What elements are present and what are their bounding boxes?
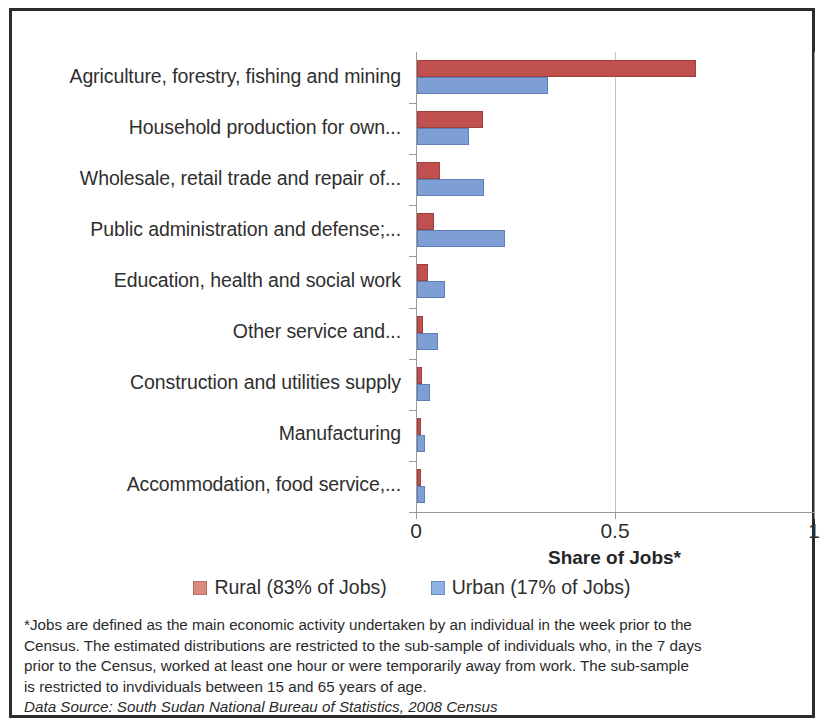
category-label: Manufacturing <box>16 423 401 443</box>
y-axis-tick <box>409 359 416 360</box>
category-label: Other service and... <box>16 321 401 341</box>
x-axis-tick-label: 0 <box>386 519 446 543</box>
x-axis-tick <box>416 512 417 519</box>
y-axis-tick <box>409 205 416 206</box>
bar-group <box>417 410 814 461</box>
bar-group <box>417 359 814 410</box>
bar-chart: Agriculture, forestry, fishing and minin… <box>12 11 812 531</box>
category-label: Accommodation, food service,... <box>16 474 401 494</box>
legend-item-rural[interactable]: Rural (83% of Jobs) <box>193 576 386 599</box>
bar-urban[interactable] <box>417 435 425 452</box>
category-label: Education, health and social work <box>16 270 401 290</box>
bar-rural[interactable] <box>417 316 423 333</box>
category-label: Construction and utilities supply <box>16 372 401 392</box>
y-axis-tick <box>409 410 416 411</box>
bar-urban[interactable] <box>417 333 438 350</box>
legend-item-urban[interactable]: Urban (17% of Jobs) <box>431 576 631 599</box>
y-axis-tick <box>409 461 416 462</box>
bar-urban[interactable] <box>417 486 425 503</box>
y-axis-tick <box>409 512 416 513</box>
bar-urban[interactable] <box>417 281 445 298</box>
figure-frame: Agriculture, forestry, fishing and minin… <box>9 8 815 718</box>
bar-urban[interactable] <box>417 179 484 196</box>
footnote-line-3: prior to the Census, worked at least one… <box>24 656 804 677</box>
plot-area <box>407 52 814 512</box>
category-label: Public administration and defense;... <box>16 219 401 239</box>
data-source: Data Source: South Sudan National Bureau… <box>24 697 804 718</box>
bar-group <box>417 461 814 512</box>
x-axis-tick <box>615 512 616 519</box>
x-axis-tick-label: 0.5 <box>585 519 645 543</box>
bar-rural[interactable] <box>417 60 696 77</box>
footnote-line-1: *Jobs are defined as the main economic a… <box>24 615 804 636</box>
legend-label: Rural (83% of Jobs) <box>214 576 386 599</box>
y-axis-category-labels: Agriculture, forestry, fishing and minin… <box>12 52 401 512</box>
bar-group <box>417 205 814 256</box>
y-axis-tick <box>409 256 416 257</box>
bar-rural[interactable] <box>417 213 434 230</box>
x-axis-tick-label: 1 <box>784 519 825 543</box>
y-axis-tick <box>409 103 416 104</box>
bar-urban[interactable] <box>417 230 505 247</box>
x-axis-tick <box>814 512 815 519</box>
bar-group <box>417 308 814 359</box>
bar-rural[interactable] <box>417 111 483 128</box>
bar-rural[interactable] <box>417 264 428 281</box>
y-axis-tick <box>409 308 416 309</box>
rural-swatch-icon <box>193 581 207 595</box>
category-label: Agriculture, forestry, fishing and minin… <box>16 66 401 86</box>
legend-label: Urban (17% of Jobs) <box>452 576 631 599</box>
bar-urban[interactable] <box>417 128 469 145</box>
bar-group <box>417 154 814 205</box>
bar-group <box>417 103 814 154</box>
footnote-line-2: Census. The estimated distributions are … <box>24 636 804 657</box>
footnote-line-4: is restricted to invdividuals between 15… <box>24 677 804 698</box>
bar-group <box>417 52 814 103</box>
gridline-1.0 <box>814 52 815 512</box>
urban-swatch-icon <box>431 581 445 595</box>
bar-rural[interactable] <box>417 162 440 179</box>
bar-urban[interactable] <box>417 384 430 401</box>
bar-group <box>417 256 814 307</box>
chart-legend: Rural (83% of Jobs)Urban (17% of Jobs) <box>12 576 812 599</box>
x-axis-title: Share of Jobs* <box>415 547 814 569</box>
bar-rural[interactable] <box>417 418 421 435</box>
bar-urban[interactable] <box>417 77 548 94</box>
bar-rural[interactable] <box>417 469 421 486</box>
category-label: Wholesale, retail trade and repair of... <box>16 168 401 188</box>
footnote-block: *Jobs are defined as the main economic a… <box>24 615 804 718</box>
bar-rural[interactable] <box>417 367 422 384</box>
category-label: Household production for own... <box>16 117 401 137</box>
y-axis-tick <box>409 154 416 155</box>
